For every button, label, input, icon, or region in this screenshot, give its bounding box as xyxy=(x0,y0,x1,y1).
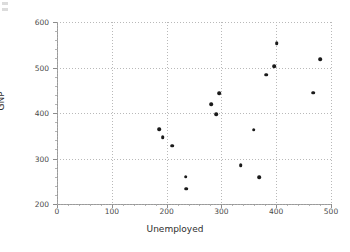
gridline-vertical xyxy=(221,22,222,204)
y-tick-label: 300 xyxy=(35,154,49,163)
chart-canvas: 0100200300400500200300400500600 Unemploy… xyxy=(0,0,350,252)
y-axis-title: GNP xyxy=(0,91,6,110)
data-point xyxy=(272,64,276,68)
x-tick-label: 100 xyxy=(105,207,119,216)
data-point xyxy=(257,175,261,179)
y-tick-label: 200 xyxy=(35,200,49,209)
gridline-horizontal xyxy=(57,68,331,69)
y-axis-line xyxy=(57,22,58,204)
corner-artifact xyxy=(2,2,8,14)
gridline-vertical xyxy=(331,22,332,204)
y-tick-label: 600 xyxy=(35,18,49,27)
y-tick-label: 500 xyxy=(35,63,49,72)
gridline-horizontal xyxy=(57,22,331,23)
gridline-vertical xyxy=(167,22,168,204)
data-point xyxy=(217,92,221,96)
y-tick-label: 400 xyxy=(35,109,49,118)
data-point xyxy=(318,58,322,62)
x-tick-label: 400 xyxy=(269,207,283,216)
x-tick-label: 0 xyxy=(55,207,60,216)
data-point xyxy=(170,144,174,148)
data-point xyxy=(161,135,165,139)
x-axis-line xyxy=(57,204,331,205)
data-point xyxy=(312,91,316,95)
x-tick-label: 500 xyxy=(324,207,338,216)
data-point xyxy=(209,103,213,107)
data-point xyxy=(275,41,279,45)
data-point xyxy=(265,73,269,77)
data-point xyxy=(252,128,256,132)
data-point xyxy=(185,187,189,191)
gridline-horizontal xyxy=(57,113,331,114)
x-tick-label: 200 xyxy=(159,207,173,216)
gridline-vertical xyxy=(112,22,113,204)
data-point xyxy=(184,175,188,179)
gridline-horizontal xyxy=(57,159,331,160)
x-tick-label: 300 xyxy=(214,207,228,216)
gridline-vertical xyxy=(276,22,277,204)
data-point xyxy=(215,112,219,116)
x-axis-title: Unemployed xyxy=(0,224,350,234)
data-point xyxy=(239,164,243,168)
data-point xyxy=(158,127,162,131)
